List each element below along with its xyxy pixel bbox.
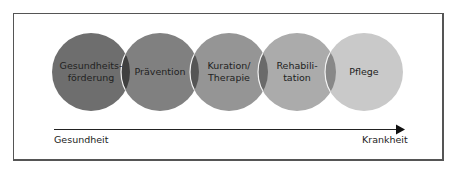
- label-gesundheitsfoerderung: Gesundheits- förderung: [53, 60, 129, 84]
- axis-start-label: Gesundheit: [54, 134, 108, 145]
- arrow-head-icon: [396, 125, 405, 135]
- label-kuration-therapie: Kuration/ Therapie: [191, 60, 267, 84]
- label-rehabilitation: Rehabili- tation: [259, 60, 335, 84]
- circles-diagram: [0, 0, 459, 173]
- axis-end-label: Krankheit: [362, 134, 408, 145]
- label-praevention: Prävention: [122, 66, 198, 78]
- label-pflege: Pflege: [326, 66, 402, 78]
